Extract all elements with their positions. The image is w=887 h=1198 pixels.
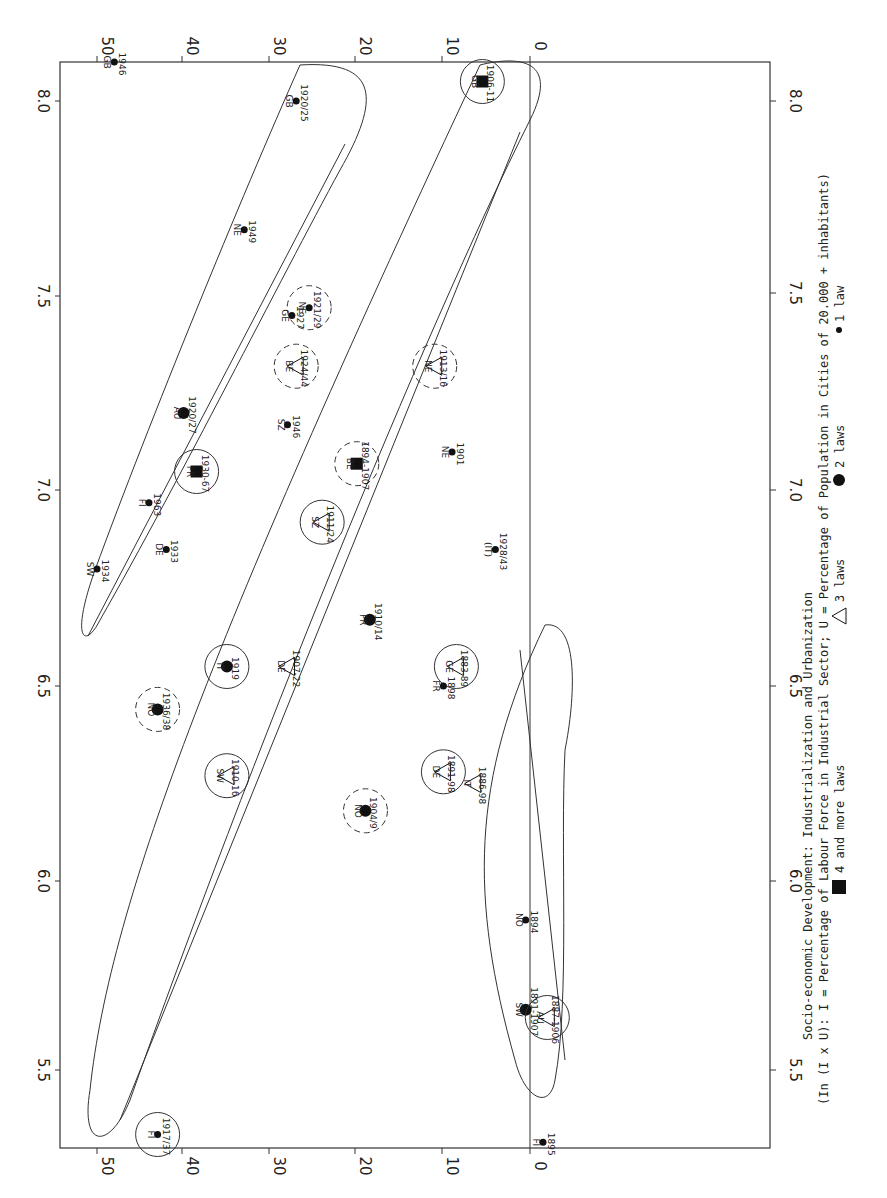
point-country-label: FI <box>146 1131 156 1139</box>
data-point: NO1904/9 <box>343 789 387 833</box>
point-year-label: 1946 <box>291 415 301 438</box>
point-country-label: NE <box>440 446 450 459</box>
data-points: GB1946GB1920/25NE1949GE1927BE1924/44AU19… <box>85 53 569 1157</box>
point-country-label: GB <box>470 75 480 88</box>
point-country-label: DE <box>276 660 286 673</box>
data-point: NE1901 <box>440 443 465 466</box>
top-tick-40: 40 <box>183 36 201 55</box>
point-year-label: 1930-67 <box>200 455 210 493</box>
point-year-label: 1883-89 <box>459 650 469 688</box>
svg-text:8.0: 8.0 <box>34 89 52 113</box>
dashed-ring-icon <box>274 344 318 388</box>
point-year-label: 1913/16 <box>438 350 448 388</box>
point-year-label: 1894-1907 <box>360 441 370 490</box>
point-country-label: AU <box>172 407 182 420</box>
bottom-tick-0: 0 <box>531 1161 549 1171</box>
point-year-label: 1917/37 <box>161 1118 171 1155</box>
data-point: NO1936/38 <box>136 687 180 731</box>
point-country-label: SZ <box>310 516 320 528</box>
bottom-tick-40: 40 <box>183 1156 201 1175</box>
point-country-label: SW <box>215 768 225 783</box>
data-point: FI1917/37 <box>136 1113 180 1157</box>
svg-text:8.0: 8.0 <box>786 89 804 113</box>
point-country-label: FI <box>137 499 147 507</box>
data-point: GB1946 <box>102 53 127 76</box>
point-year-label: 1934 <box>100 560 110 583</box>
svg-text:5.5: 5.5 <box>786 1058 804 1082</box>
point-country-label: DE <box>154 543 164 556</box>
point-year-label: 1919 <box>230 657 240 680</box>
upper-ellipse <box>82 65 367 636</box>
data-point: IT1919 <box>205 645 249 689</box>
top-tick-20: 20 <box>356 36 374 55</box>
legend-square-icon <box>832 880 846 894</box>
caption: Socio-economic Development: Industrializ… <box>801 173 847 1105</box>
bottom-tick-50: 50 <box>98 1156 116 1175</box>
data-point: DE1933 <box>154 540 179 563</box>
point-year-label: 1895 <box>546 1133 556 1156</box>
point-year-label: 1898 <box>446 677 456 700</box>
legend-dot-icon <box>836 327 842 333</box>
plot-frame <box>60 62 770 1148</box>
data-point: AU1920/27 <box>172 396 197 433</box>
top-axis: 50 40 30 20 10 0 <box>97 36 549 62</box>
top-tick-10: 10 <box>443 36 461 55</box>
left-axis: 8.0 7.5 7.0 6.5 6.0 5.5 <box>34 89 60 1082</box>
point-year-label: 1910/14 <box>373 603 383 641</box>
data-point: NE1921/29 <box>287 286 331 330</box>
point-country-label: FR <box>431 680 441 691</box>
point-year-label: 1963 <box>152 493 162 516</box>
point-country-label: (IT) <box>483 542 493 557</box>
point-year-label: 1887-1906 <box>550 995 560 1044</box>
top-tick-0: 0 <box>531 41 549 51</box>
point-year-label: 1949 <box>247 220 257 243</box>
point-country-label: NE <box>297 301 307 314</box>
point-country-label: SZ <box>276 419 286 431</box>
legend-label-2-laws: 2 laws <box>833 425 847 468</box>
point-year-label: 1924/44 <box>299 350 309 388</box>
top-tick-30: 30 <box>270 36 288 55</box>
point-year-label: 1901 <box>455 443 465 466</box>
point-year-label: 1886-98 <box>477 767 487 805</box>
solid-ring-icon <box>421 750 465 794</box>
point-country-label: NO <box>146 702 156 716</box>
svg-text:5.5: 5.5 <box>34 1058 52 1082</box>
point-year-label: 1910-16 <box>230 759 240 797</box>
solid-ring-icon <box>300 500 344 544</box>
scatter-chart: 50 40 30 20 10 0 50 40 30 20 10 0 8.0 7.… <box>0 0 887 1198</box>
data-point: DE1891-98 <box>421 750 465 794</box>
point-year-label: 1907-22 <box>291 650 301 688</box>
point-country-label: IT <box>215 662 225 671</box>
data-point: GB1906-11 <box>460 60 504 104</box>
point-year-label: 1933 <box>169 540 179 563</box>
point-country-label: AU <box>535 1011 545 1024</box>
point-country-label: FR <box>358 614 368 625</box>
point-year-label: 1920/25 <box>299 84 309 121</box>
point-country-label: GB <box>102 55 112 68</box>
bottom-tick-10: 10 <box>443 1156 461 1175</box>
point-year-label: 1891-98 <box>446 755 456 793</box>
point-country-label: NE <box>232 223 242 236</box>
data-point: SZ1911/24 <box>300 500 344 544</box>
data-point: NE1913/16 <box>413 344 457 388</box>
point-country-label: SW <box>514 1002 524 1017</box>
point-year-label: 1946 <box>117 53 127 76</box>
caption-title: Socio-economic Development: Industrializ… <box>801 592 815 1040</box>
bottom-tick-20: 20 <box>356 1156 374 1175</box>
caption-subtitle: (In (I x U): I = Percentage of Labour Fo… <box>817 173 831 1105</box>
svg-text:7.5: 7.5 <box>786 281 804 305</box>
svg-text:6.0: 6.0 <box>34 869 52 893</box>
point-country-label: GE <box>444 660 454 673</box>
point-country-label: SW <box>85 562 95 577</box>
data-point: BE1894-1907 <box>335 441 379 490</box>
bottom-tick-30: 30 <box>270 1156 288 1175</box>
point-country-label: BE <box>284 360 294 372</box>
dashed-ring-icon <box>413 344 457 388</box>
data-point: FR1910/14 <box>358 603 383 641</box>
point-country-label: BE <box>345 458 355 470</box>
data-point: FI1895 <box>531 1133 556 1156</box>
point-country-label: FI <box>531 1138 541 1146</box>
data-point: FI1963 <box>137 493 162 516</box>
point-country-label: NO <box>514 913 524 927</box>
data-point: SZ1946 <box>276 415 301 438</box>
